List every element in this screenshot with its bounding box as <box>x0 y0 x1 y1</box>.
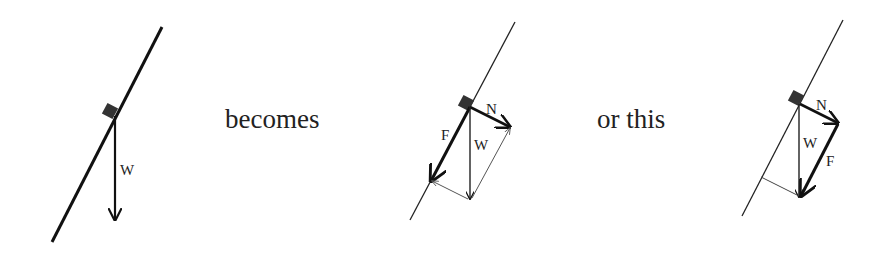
diagram-1-incline-weight: W <box>52 27 162 242</box>
friction-label: F <box>441 127 449 143</box>
normal-label: N <box>486 101 497 117</box>
diagram-3-vector-chain: N W F <box>742 20 843 216</box>
weight-label: W <box>803 135 818 151</box>
incline-line <box>52 27 162 242</box>
normal-label: N <box>816 97 827 113</box>
becomes-text: becomes <box>225 104 319 134</box>
projection-line <box>761 177 799 196</box>
friction-arrow <box>431 107 470 181</box>
force-decomposition-diagram: W becomes N F W or this N W F <box>0 0 890 255</box>
weight-label: W <box>120 162 135 178</box>
diagram-2-decomposition: N F W <box>410 22 515 220</box>
weight-label: W <box>474 137 489 153</box>
or-this-text: or this <box>597 104 665 134</box>
parallelogram-side-bottom <box>432 181 468 199</box>
friction-label: F <box>826 153 834 169</box>
